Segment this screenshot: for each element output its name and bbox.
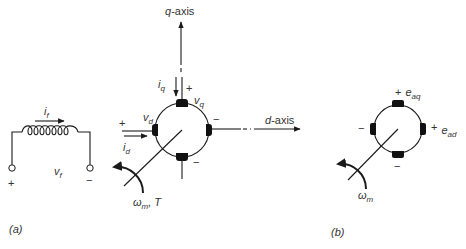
bottom-brush-minus-sign: − bbox=[193, 156, 199, 168]
b-bottom-brush-icon bbox=[392, 151, 404, 158]
b-left-minus-sign: − bbox=[358, 122, 364, 134]
field-plus-sign: + bbox=[8, 177, 14, 189]
bottom-brush-icon bbox=[176, 153, 188, 161]
armature-a: q-axis iq + vq + vd id d-axis − − bbox=[114, 5, 300, 211]
b-rotation-label: ωm bbox=[358, 189, 374, 204]
b-left-brush-icon bbox=[370, 123, 376, 135]
b-right-brush-icon bbox=[420, 123, 426, 135]
field-coil-icon bbox=[22, 126, 78, 135]
vq-plus-sign: + bbox=[186, 82, 192, 94]
id-label: id bbox=[123, 141, 130, 156]
right-brush-minus-sign: − bbox=[213, 113, 219, 125]
panel-b: +eaq +ead − − ωm (b) bbox=[331, 86, 457, 238]
b-top-brush-icon bbox=[392, 100, 404, 107]
iq-label: iq bbox=[158, 78, 165, 93]
vd-plus-sign: + bbox=[119, 117, 125, 129]
ead-label: +ead bbox=[431, 121, 457, 139]
rotation-label: ωm, T bbox=[133, 196, 162, 211]
field-terminal-plus-icon bbox=[9, 165, 15, 171]
b-shaft-line bbox=[348, 129, 398, 180]
rotation-arrow-icon bbox=[114, 167, 143, 193]
field-right-wire bbox=[78, 132, 90, 165]
right-brush-icon bbox=[206, 124, 212, 136]
q-axis-label: q-axis bbox=[165, 5, 195, 17]
b-bottom-minus-sign: − bbox=[394, 160, 400, 172]
vd-label: vd bbox=[143, 111, 154, 126]
caption-a: (a) bbox=[9, 223, 23, 235]
field-voltage-label: vf bbox=[54, 165, 63, 180]
panel-a: if vf + − q-axis iq + vq + vd bbox=[8, 5, 300, 235]
shaft-line bbox=[124, 130, 182, 186]
dc-machine-figure: if vf + − q-axis iq + vq + vd bbox=[0, 0, 466, 249]
d-axis-label: d-axis bbox=[265, 114, 295, 126]
field-winding: if vf + − bbox=[8, 105, 93, 189]
field-current-label: if bbox=[44, 105, 49, 120]
field-left-wire bbox=[12, 132, 22, 165]
field-terminal-minus-icon bbox=[87, 165, 93, 171]
eaq-label: +eaq bbox=[395, 86, 421, 101]
field-minus-sign: − bbox=[86, 174, 92, 186]
top-brush-icon bbox=[176, 99, 188, 107]
caption-b: (b) bbox=[331, 226, 345, 238]
